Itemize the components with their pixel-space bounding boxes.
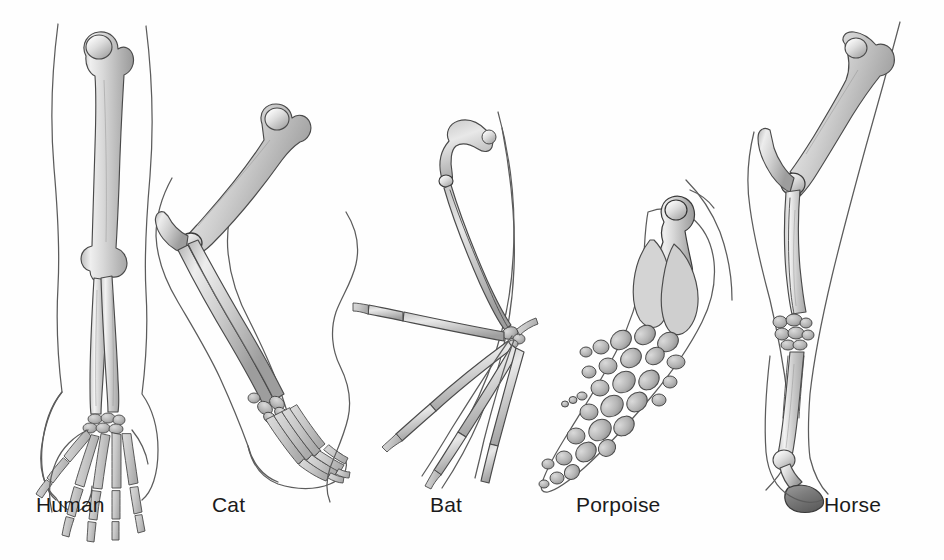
label-porpoise: Porpoise xyxy=(576,493,660,516)
background xyxy=(0,0,944,560)
bat-humeral-head xyxy=(482,130,496,144)
figure-canvas: Human xyxy=(0,0,944,560)
label-horse: Horse xyxy=(824,493,881,516)
human-humeral-head xyxy=(86,35,112,59)
porpoise-humeral-head xyxy=(665,200,687,220)
label-bat: Bat xyxy=(430,493,462,516)
label-cat: Cat xyxy=(212,493,245,516)
horse-humeral-head xyxy=(845,38,867,58)
label-human: Human xyxy=(36,493,105,516)
homologous-limbs-illustration: Human xyxy=(0,0,944,560)
human-carpals xyxy=(83,413,125,434)
cat-humeral-head xyxy=(265,108,289,130)
